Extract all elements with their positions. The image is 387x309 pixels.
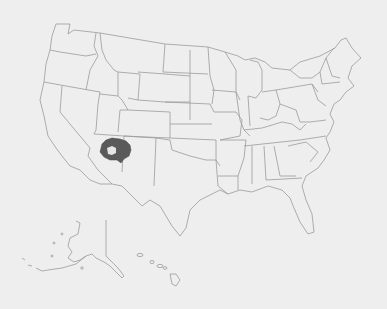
us-map-svg xyxy=(0,0,387,309)
hawaii-inset xyxy=(137,253,180,286)
highlighted-region-navajo-nation xyxy=(100,138,131,163)
alaska-inset xyxy=(22,220,124,278)
us-map xyxy=(0,0,387,309)
state-borders xyxy=(44,33,340,194)
